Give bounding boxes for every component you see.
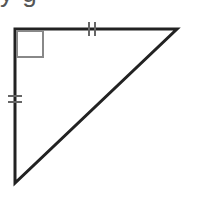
triangle bbox=[15, 29, 177, 183]
right-triangle-figure bbox=[0, 0, 224, 209]
right-angle-marker bbox=[17, 31, 43, 57]
